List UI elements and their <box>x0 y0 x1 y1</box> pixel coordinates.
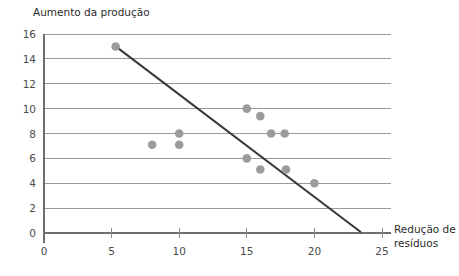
data-point-1 <box>148 140 157 149</box>
x-axis-title-line2: resíduos <box>394 237 438 249</box>
y-tick-label-4: 4 <box>29 177 36 189</box>
y-tick-label-0: 0 <box>29 227 36 239</box>
data-point-7 <box>280 129 289 138</box>
x-axis-title-line1: Redução de <box>394 223 456 235</box>
x-tick-label-15: 15 <box>240 245 253 257</box>
data-point-3 <box>175 140 184 149</box>
y-tick-label-16: 16 <box>23 28 37 40</box>
gridlines-group <box>44 34 391 208</box>
y-tick-label-2: 2 <box>29 202 36 214</box>
x-tick-label-20: 20 <box>308 245 321 257</box>
y-tick-label-6: 6 <box>29 152 36 164</box>
data-points-group <box>111 42 318 187</box>
y-axis-title: Aumento da produção <box>33 6 150 18</box>
data-point-8 <box>243 154 252 163</box>
data-point-6 <box>267 129 276 138</box>
y-tick-label-8: 8 <box>29 128 36 140</box>
x-tick-labels-group: 0510152025 <box>41 245 389 257</box>
data-point-11 <box>310 179 319 188</box>
trend-line <box>116 46 361 231</box>
y-tick-labels-group: 0246810121416 <box>23 28 37 239</box>
x-tick-label-5: 5 <box>108 245 115 257</box>
x-tick-label-25: 25 <box>375 245 388 257</box>
data-point-0 <box>111 42 120 51</box>
x-tick-label-0: 0 <box>41 245 48 257</box>
trend-line-group <box>116 46 361 231</box>
data-point-5 <box>256 112 265 121</box>
data-point-10 <box>282 165 291 174</box>
y-tick-label-10: 10 <box>23 103 36 115</box>
data-point-9 <box>256 165 265 174</box>
y-tick-label-14: 14 <box>23 53 37 65</box>
data-point-4 <box>243 104 252 113</box>
y-tick-label-12: 12 <box>23 78 36 90</box>
data-point-2 <box>175 129 184 138</box>
scatter-chart: 0246810121416 0510152025 Aumento da prod… <box>0 0 459 276</box>
chart-canvas: 0246810121416 0510152025 Aumento da prod… <box>0 0 459 276</box>
axes-group <box>44 34 391 243</box>
x-tick-label-10: 10 <box>173 245 186 257</box>
